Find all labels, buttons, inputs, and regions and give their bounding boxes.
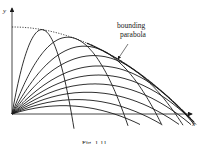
caption: Fig. 1.11 [82,139,107,144]
annotation-bounding: bounding [117,21,146,30]
trajectory-diagram: y x bounding parabola Fig. 1.11 [0,0,200,144]
y-axis-label: y [2,7,7,15]
trajectory-curve [12,106,140,125]
annotation-arrow [118,44,128,59]
annotation-parabola: parabola [120,30,146,39]
trajectory-curve [12,92,179,124]
